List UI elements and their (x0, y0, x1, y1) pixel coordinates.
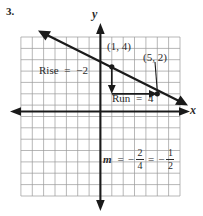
graph-figure (0, 0, 203, 216)
coordinate-plane-svg (0, 0, 203, 216)
fraction-1-numerator: 2 (137, 148, 144, 159)
problem-number: 3. (6, 6, 14, 17)
rise-annotation: Rise = −2 (39, 65, 88, 76)
y-axis (96, 23, 105, 211)
fraction-2-numerator: 1 (167, 148, 174, 159)
slope-sign-1: − (128, 154, 134, 165)
fraction-1-denominator: 4 (137, 160, 144, 171)
rise-equals-sign: = (64, 64, 70, 76)
point-1-4-label: (1, 4) (107, 41, 131, 52)
fraction-2-over-4: 2 4 (136, 148, 144, 171)
point-5-2-marker (155, 91, 160, 96)
x-axis-right-arrowhead (179, 107, 190, 116)
run-annotation: Run = 4 (112, 93, 154, 104)
run-word: Run (112, 92, 130, 104)
run-value: 4 (148, 92, 154, 104)
slope-variable-m: m (103, 154, 112, 165)
y-axis-top-arrowhead (96, 23, 105, 34)
point-5-2-label: (5, 2) (143, 52, 167, 63)
x-axis-label: x (190, 104, 196, 116)
fraction-1-over-2: 1 2 (166, 148, 174, 171)
point-1-4-marker (109, 64, 114, 69)
y-axis-label: y (92, 8, 97, 20)
run-equals-sign: = (136, 92, 142, 104)
rise-word: Rise (39, 64, 59, 76)
y-axis-bottom-arrowhead (96, 200, 105, 211)
slope-equals-2: = (148, 154, 154, 165)
rise-value: −2 (76, 64, 88, 76)
x-axis-left-arrowhead (10, 107, 21, 116)
slope-equals-1: = (118, 154, 124, 165)
fraction-2-denominator: 2 (167, 160, 174, 171)
slope-sign-2: − (158, 154, 164, 165)
slope-equation: m = − 2 4 = − 1 2 (103, 148, 175, 171)
